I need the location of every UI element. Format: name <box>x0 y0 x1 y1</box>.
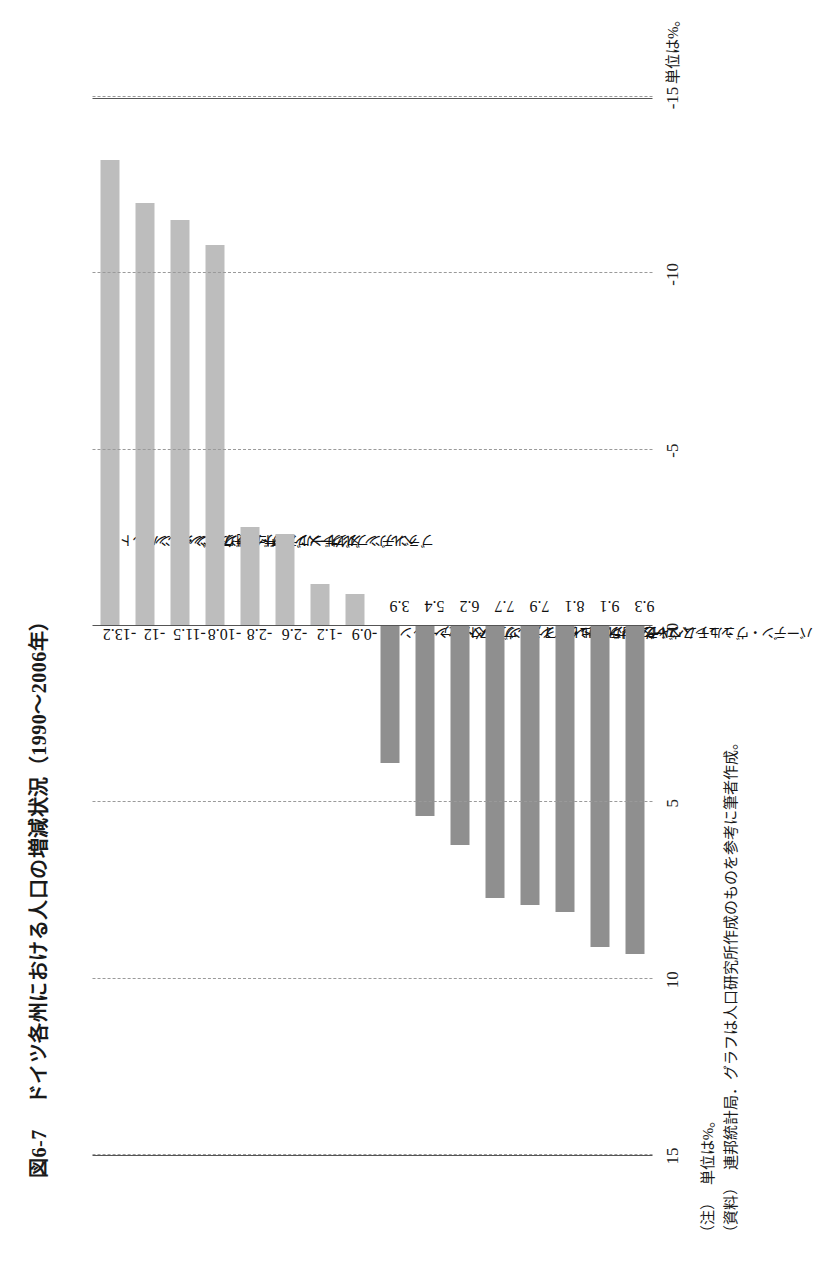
category-label: ベルリン <box>365 532 417 552</box>
bar <box>485 626 505 898</box>
bar-series: -13.2ザクセン・アンハルト-12メクレンブルク・フォアポンメルン-11.5チ… <box>92 99 652 1155</box>
bar <box>555 626 575 912</box>
source-text: 連邦統計局．グラフは人口研究所作成のものを参考に筆者作成。 <box>722 735 738 1170</box>
y-tick-label: 0 <box>662 623 682 632</box>
y-tick-label: 15 <box>662 1148 682 1165</box>
bar <box>450 626 470 845</box>
figure-title: 図6-7 ドイツ各州における人口の増減状況（1990～2006年） <box>22 610 51 1178</box>
bar-value-label: -11.5 <box>172 625 205 643</box>
bar-value-label: -10.8 <box>207 625 240 643</box>
bar <box>275 534 295 626</box>
chart-plot-area: -13.2ザクセン・アンハルト-12メクレンブルク・フォアポンメルン-11.5チ… <box>92 98 652 1156</box>
bar <box>520 626 540 905</box>
y-tick-label: 10 <box>662 971 682 988</box>
bar-value-label: 8.1 <box>564 597 584 615</box>
figure-number: 図6-7 <box>27 1129 49 1178</box>
source-tag: （資料） <box>719 1180 742 1240</box>
bar <box>415 626 435 816</box>
bar <box>345 594 365 626</box>
bar <box>205 245 225 626</box>
y-tick-label: -10 <box>662 263 682 286</box>
bar <box>135 203 155 626</box>
bar-value-label: 3.9 <box>389 597 409 615</box>
note-text: 単位は%。 <box>699 1113 715 1186</box>
bar <box>625 626 645 954</box>
y-tick-label: -15 <box>662 87 682 110</box>
figure-title-text: ドイツ各州における人口の増減状況（1990～2006年） <box>27 610 49 1104</box>
gridline <box>92 96 652 97</box>
bar-value-label: 9.3 <box>634 597 654 615</box>
bar <box>380 626 400 764</box>
y-tick-label: 5 <box>662 799 682 808</box>
bar-value-label: 7.9 <box>529 597 549 615</box>
unit-note-text: 単位は%。 <box>660 12 681 85</box>
rotated-figure-page: 図6-7 ドイツ各州における人口の増減状況（1990～2006年） -13.2ザ… <box>0 0 835 1264</box>
gridline <box>92 978 652 979</box>
bar-value-label: 5.4 <box>424 597 444 615</box>
bar <box>310 584 330 626</box>
y-tick-label: -5 <box>662 444 682 458</box>
bar <box>100 161 120 627</box>
gridline <box>92 1154 652 1155</box>
bar-value-label: 7.7 <box>494 597 514 615</box>
bar-value-label: -0.9 <box>351 625 376 643</box>
gridline <box>92 801 652 802</box>
note-row: （注） 単位は%。 <box>696 735 719 1240</box>
note-tag: （注） <box>696 1195 719 1240</box>
bar <box>170 220 190 626</box>
gridline <box>92 449 652 450</box>
bar-value-label: -2.8 <box>246 625 271 643</box>
bar-value-label: -13.2 <box>102 625 135 643</box>
bar-value-label: -2.6 <box>281 625 306 643</box>
source-row: （資料） 連邦統計局．グラフは人口研究所作成のものを参考に筆者作成。 <box>719 735 742 1240</box>
bar-value-label: -12 <box>143 625 164 643</box>
bar-value-label: 6.2 <box>459 597 479 615</box>
bar-value-label: -1.2 <box>316 625 341 643</box>
bar <box>240 527 260 626</box>
bar <box>590 626 610 947</box>
figure-notes: （注） 単位は%。 （資料） 連邦統計局．グラフは人口研究所作成のものを参考に筆… <box>696 735 741 1240</box>
bar-value-label: 9.1 <box>599 597 619 615</box>
zero-axis-line <box>92 625 652 626</box>
gridline <box>92 272 652 273</box>
